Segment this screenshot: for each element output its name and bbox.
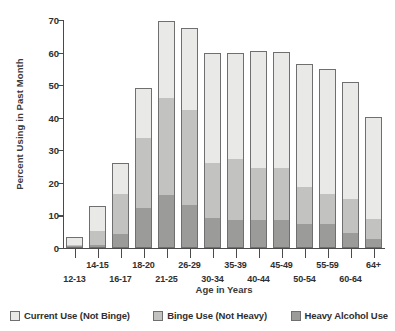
bar-segment-binge-use-not-heavy <box>113 194 127 235</box>
x-tick-26-29 <box>190 249 191 258</box>
bar-segment-binge-use-not-heavy <box>205 163 219 218</box>
x-axis-label-14-15: 14-15 <box>86 260 109 270</box>
legend-swatch-icon <box>153 311 163 321</box>
bar-16-17 <box>112 163 128 248</box>
bar-40-44 <box>250 51 266 248</box>
bar-segment-current-use-not-binge <box>136 89 150 138</box>
y-tick-label: 50 <box>48 80 59 91</box>
bar-segment-heavy-alcohol-use <box>159 195 173 247</box>
bar-segment-binge-use-not-heavy <box>90 231 104 245</box>
chart-legend: Current Use (Not Binge)Binge Use (Not He… <box>10 310 388 321</box>
x-axis-label-30-34: 30-34 <box>201 274 224 284</box>
bar-segment-current-use-not-binge <box>205 54 219 163</box>
bar-segment-current-use-not-binge <box>113 164 127 194</box>
x-tick-50-54 <box>305 249 306 258</box>
bar-64+ <box>365 117 381 248</box>
bar-segment-binge-use-not-heavy <box>159 98 173 195</box>
bar-14-15 <box>89 206 105 248</box>
bar-21-25 <box>158 21 174 248</box>
bar-segment-current-use-not-binge <box>366 118 380 219</box>
x-tick-55-59 <box>328 249 329 258</box>
bar-segment-heavy-alcohol-use <box>297 224 311 247</box>
bar-18-20 <box>135 88 151 248</box>
bar-segment-current-use-not-binge <box>320 70 334 194</box>
x-tick-21-25 <box>167 249 168 258</box>
x-axis-label-26-29: 26-29 <box>178 260 201 270</box>
legend-label: Current Use (Not Binge) <box>24 310 130 321</box>
x-tick-45-49 <box>282 249 283 258</box>
bar-segment-current-use-not-binge <box>159 22 173 98</box>
bar-segment-heavy-alcohol-use <box>251 220 265 247</box>
bar-segment-current-use-not-binge <box>297 65 311 188</box>
y-tick-label: 40 <box>48 112 59 123</box>
bar-segment-binge-use-not-heavy <box>251 168 265 220</box>
legend-label: Heavy Alcohol Use <box>305 310 388 321</box>
bar-segment-binge-use-not-heavy <box>274 168 288 220</box>
legend-item-current-use-not-binge[interactable]: Current Use (Not Binge) <box>10 310 130 321</box>
y-tick-label: 10 <box>48 210 59 221</box>
bar-segment-binge-use-not-heavy <box>136 138 150 208</box>
legend-swatch-icon <box>291 311 301 321</box>
x-axis-label-12-13: 12-13 <box>63 274 86 284</box>
bar-segment-current-use-not-binge <box>228 54 242 159</box>
bar-segment-current-use-not-binge <box>343 83 357 200</box>
bar-segment-heavy-alcohol-use <box>136 208 150 247</box>
x-axis-label-64+: 64+ <box>366 260 381 270</box>
stacked-bar-chart: Percent Using in Past Month 010203040506… <box>0 0 395 331</box>
legend-item-heavy-alcohol-use[interactable]: Heavy Alcohol Use <box>291 310 388 321</box>
x-tick-18-20 <box>144 249 145 258</box>
bar-segment-heavy-alcohol-use <box>274 220 288 247</box>
bar-55-59 <box>319 69 335 248</box>
y-tick-label: 60 <box>48 47 59 58</box>
x-tick-40-44 <box>259 249 260 258</box>
x-tick-64+ <box>374 249 375 258</box>
x-tick-60-64 <box>351 249 352 258</box>
bar-35-39 <box>227 53 243 248</box>
x-axis-label-35-39: 35-39 <box>224 260 247 270</box>
x-axis-label-60-64: 60-64 <box>339 274 362 284</box>
legend-swatch-icon <box>10 311 20 321</box>
bar-segment-heavy-alcohol-use <box>320 224 334 247</box>
x-tick-12-13 <box>75 249 76 258</box>
bar-segment-binge-use-not-heavy <box>320 194 334 225</box>
x-tick-30-34 <box>213 249 214 258</box>
bar-segment-heavy-alcohol-use <box>67 246 81 247</box>
bar-segment-binge-use-not-heavy <box>343 199 357 232</box>
bar-segment-current-use-not-binge <box>274 53 288 168</box>
x-axis-line <box>63 248 385 249</box>
x-axis-label-18-20: 18-20 <box>132 260 155 270</box>
x-axis-label-21-25: 21-25 <box>155 274 178 284</box>
y-axis-title: Percent Using in Past Month <box>8 0 30 248</box>
y-axis-line <box>63 20 64 248</box>
x-axis-label-45-49: 45-49 <box>270 260 293 270</box>
y-tick-label: 0 <box>54 243 59 254</box>
y-tick-label: 20 <box>48 177 59 188</box>
bar-segment-binge-use-not-heavy <box>228 159 242 220</box>
bar-26-29 <box>181 28 197 248</box>
bar-segment-binge-use-not-heavy <box>182 110 196 206</box>
bar-segment-heavy-alcohol-use <box>90 245 104 247</box>
x-axis-title: Age in Years <box>63 284 385 295</box>
bar-segment-binge-use-not-heavy <box>297 187 311 224</box>
bar-segment-heavy-alcohol-use <box>205 218 219 247</box>
y-tick-label: 70 <box>48 15 59 26</box>
bar-segment-heavy-alcohol-use <box>366 239 380 247</box>
x-axis-label-40-44: 40-44 <box>247 274 270 284</box>
bar-segment-current-use-not-binge <box>67 238 81 245</box>
x-axis-label-55-59: 55-59 <box>316 260 339 270</box>
x-tick-16-17 <box>121 249 122 258</box>
bar-segment-binge-use-not-heavy <box>366 219 380 239</box>
bar-segment-heavy-alcohol-use <box>182 205 196 247</box>
bar-45-49 <box>273 52 289 248</box>
x-tick-35-39 <box>236 249 237 258</box>
plot-area: 010203040506070 12-1314-1516-1718-2021-2… <box>63 20 385 248</box>
x-axis-label-50-54: 50-54 <box>293 274 316 284</box>
bar-segment-current-use-not-binge <box>251 52 265 168</box>
bar-segment-current-use-not-binge <box>90 207 104 231</box>
legend-label: Binge Use (Not Heavy) <box>167 310 267 321</box>
bar-segment-heavy-alcohol-use <box>343 233 357 247</box>
y-tick-label: 30 <box>48 145 59 156</box>
legend-item-binge-use-not-heavy[interactable]: Binge Use (Not Heavy) <box>153 310 267 321</box>
bar-60-64 <box>342 82 358 248</box>
bar-12-13 <box>66 237 82 248</box>
